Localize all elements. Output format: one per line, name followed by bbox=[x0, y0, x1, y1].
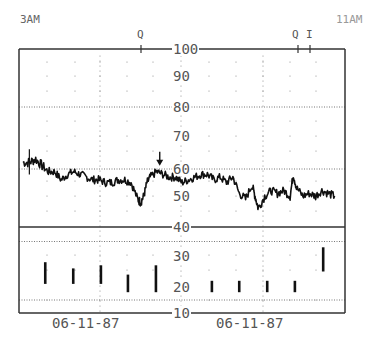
svg-text:20: 20 bbox=[173, 279, 190, 295]
svg-text:60: 60 bbox=[173, 161, 190, 177]
svg-text:10: 10 bbox=[173, 305, 190, 321]
svg-text:90: 90 bbox=[173, 68, 190, 84]
svg-text:70: 70 bbox=[173, 128, 190, 144]
svg-text:50: 50 bbox=[173, 188, 190, 204]
svg-text:40: 40 bbox=[173, 219, 190, 235]
svg-text:30: 30 bbox=[173, 248, 190, 264]
chart-canvas: 100908070605040302010 bbox=[0, 0, 379, 343]
annotations bbox=[156, 152, 163, 166]
svg-text:100: 100 bbox=[173, 41, 198, 57]
svg-text:80: 80 bbox=[173, 99, 190, 115]
chart-frame bbox=[19, 45, 345, 313]
